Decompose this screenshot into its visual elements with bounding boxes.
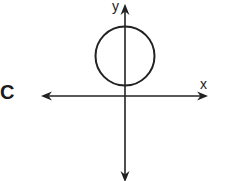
x-axis-label: x [200,76,207,92]
coordinate-plane: y x [0,0,230,181]
y-axis-label: y [112,0,119,14]
